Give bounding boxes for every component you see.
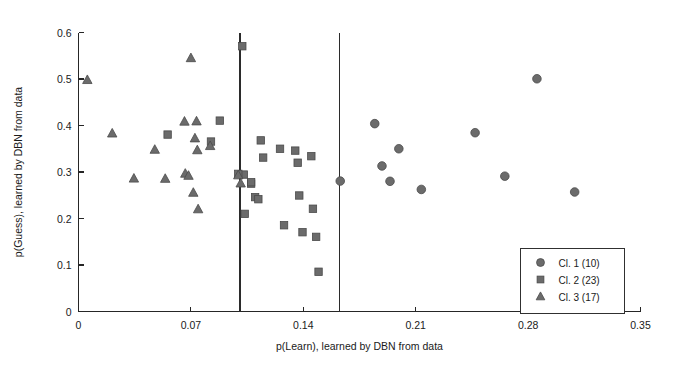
- x-tick-label: 0.07: [181, 319, 202, 331]
- data-point-square: [292, 147, 299, 154]
- series-1: [336, 74, 579, 196]
- plot-canvas: 00.070.140.210.280.3500.10.20.30.40.50.6…: [0, 0, 682, 376]
- y-axis-title: p(Guess), learned by DBN from data: [12, 87, 24, 258]
- y-tick-label: 0.4: [57, 120, 72, 132]
- y-tick-label: 0.2: [57, 213, 72, 225]
- data-point-square: [216, 117, 223, 124]
- x-tick-label: 0.21: [405, 319, 426, 331]
- y-tick-label: 0.1: [57, 259, 72, 271]
- legend[interactable]: Cl. 1 (10)Cl. 2 (23)Cl. 3 (17): [521, 249, 625, 314]
- data-point-square: [309, 205, 316, 212]
- data-point-triangle: [150, 145, 159, 154]
- legend-label-2: Cl. 2 (23): [559, 275, 600, 286]
- data-point-triangle: [83, 75, 92, 84]
- data-point-square: [312, 233, 319, 240]
- data-point-square: [259, 154, 266, 161]
- data-point-square: [247, 179, 254, 186]
- data-point-square: [315, 268, 322, 275]
- data-points: [83, 43, 579, 276]
- y-tick-label: 0: [66, 306, 72, 318]
- data-point-circle: [501, 172, 510, 181]
- data-point-square: [241, 210, 248, 217]
- legend-marker-circle: [537, 259, 545, 267]
- data-point-triangle: [180, 117, 189, 126]
- legend-label-1: Cl. 1 (10): [559, 258, 600, 269]
- y-tick-label: 0.6: [57, 27, 72, 39]
- x-tick-label: 0: [76, 319, 82, 331]
- data-point-triangle: [189, 188, 198, 197]
- data-point-triangle: [236, 178, 245, 187]
- data-point-square: [255, 196, 262, 203]
- data-point-square: [164, 131, 171, 138]
- data-point-triangle: [186, 53, 195, 62]
- x-tick-label: 0.35: [630, 319, 651, 331]
- data-point-circle: [386, 177, 395, 186]
- data-point-triangle: [192, 116, 201, 125]
- data-point-square: [276, 145, 283, 152]
- data-point-square: [257, 137, 264, 144]
- legend-label-3: Cl. 3 (17): [559, 292, 600, 303]
- data-point-square: [294, 159, 301, 166]
- data-point-triangle: [161, 174, 170, 183]
- series-2: [164, 43, 322, 276]
- y-tick-label: 0.3: [57, 166, 72, 178]
- data-point-triangle: [129, 174, 138, 183]
- x-tick-label: 0.14: [293, 319, 314, 331]
- data-point-circle: [395, 144, 404, 153]
- data-point-circle: [378, 162, 387, 171]
- scatter-plot-figure: 00.070.140.210.280.3500.10.20.30.40.50.6…: [0, 0, 682, 376]
- data-point-square: [308, 152, 315, 159]
- data-point-square: [296, 192, 303, 199]
- data-point-square: [299, 229, 306, 236]
- data-point-circle: [533, 74, 542, 83]
- data-point-square: [280, 222, 287, 229]
- legend-marker-square: [537, 276, 544, 283]
- data-point-triangle: [193, 145, 202, 154]
- data-point-triangle: [193, 204, 202, 213]
- divider-lines: [240, 33, 340, 312]
- data-point-triangle: [190, 133, 199, 142]
- data-point-circle: [570, 188, 579, 197]
- data-point-circle: [417, 185, 426, 194]
- data-point-circle: [336, 177, 345, 186]
- y-tick-label: 0.5: [57, 73, 72, 85]
- data-point-triangle: [108, 128, 117, 137]
- x-tick-label: 0.28: [518, 319, 539, 331]
- data-point-circle: [471, 128, 480, 137]
- data-point-square: [239, 43, 246, 50]
- data-point-circle: [370, 119, 379, 128]
- x-axis-title: p(Learn), learned by DBN from data: [276, 340, 443, 352]
